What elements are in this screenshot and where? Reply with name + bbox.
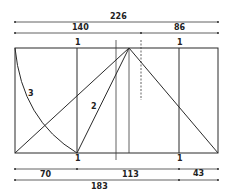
- dim-label-86: 86: [174, 23, 186, 32]
- diagonal-2: [77, 48, 129, 153]
- dim-label-140: 140: [72, 23, 89, 32]
- dimension-226: 226: [14, 12, 219, 23]
- dim-label-113: 113: [122, 170, 139, 179]
- label-bottom-right-unit: 1: [177, 154, 183, 163]
- label-top-left-unit: 1: [75, 38, 81, 47]
- dimension-183: 183: [14, 179, 219, 191]
- dimension-70-113-43: 70 113 43: [14, 168, 219, 179]
- main-rectangle: [15, 48, 218, 153]
- diagonal-long-left: [15, 48, 129, 153]
- diagram-canvas: 226 140 86 1 1 1 1 3 2 70 113 43: [0, 0, 231, 194]
- dim-label-183: 183: [91, 182, 108, 191]
- diagonal-right: [129, 48, 218, 153]
- proportion-diagram: 226 140 86 1 1 1 1 3 2 70 113 43: [0, 0, 231, 194]
- dim-label-43: 43: [193, 169, 204, 178]
- dim-label-70: 70: [40, 170, 52, 179]
- label-diagonal-2: 2: [91, 102, 97, 111]
- arc-3: [15, 48, 77, 153]
- label-arc-3: 3: [28, 89, 34, 98]
- label-top-right-unit: 1: [177, 38, 183, 47]
- dimension-140-86: 140 86: [14, 23, 219, 34]
- label-bottom-left-unit: 1: [75, 154, 81, 163]
- dim-label-226: 226: [110, 12, 127, 21]
